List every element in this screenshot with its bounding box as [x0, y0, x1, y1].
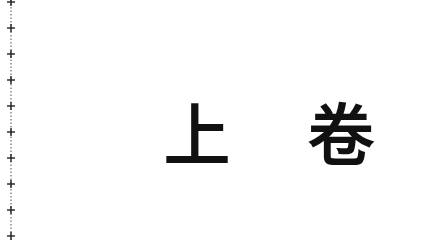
title-char-upper: 上: [164, 96, 230, 176]
title-char-volume: 卷: [308, 96, 374, 176]
binding-margin-line: [0, 0, 24, 240]
volume-title: 上 卷: [160, 96, 390, 176]
